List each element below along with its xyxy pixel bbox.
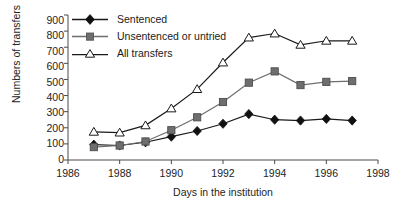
chart-container: Numbers of transfers Days in the institu… xyxy=(0,0,410,210)
plot-area xyxy=(0,0,410,210)
